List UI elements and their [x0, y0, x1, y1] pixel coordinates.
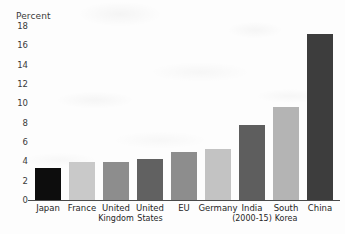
y-axis-tick-8: 8: [23, 118, 28, 127]
bar-slot: [235, 26, 269, 200]
y-axis-tick-labels: 181614121086420: [14, 26, 31, 200]
bar-chart: Percent 181614121086420 JapanFranceUnite…: [0, 0, 345, 234]
x-axis-label-line1: United: [136, 203, 164, 213]
y-axis-tick-6: 6: [23, 138, 28, 147]
plot-area: [31, 26, 337, 200]
bar-slot: [201, 26, 235, 200]
bar[interactable]: [35, 168, 61, 200]
x-axis-label-line1: Japan: [36, 203, 60, 213]
x-axis-label-line2: States: [129, 214, 171, 225]
bars-layer: [31, 26, 337, 200]
y-axis-tick-10: 10: [17, 99, 28, 108]
bar-slot: [65, 26, 99, 200]
y-axis-tick-4: 4: [23, 157, 28, 166]
x-axis-label-line1: China: [308, 203, 332, 213]
bar[interactable]: [205, 149, 231, 200]
x-axis-label-line1: United: [102, 203, 130, 213]
y-axis-tick-2: 2: [23, 176, 28, 185]
y-axis-tick-14: 14: [17, 60, 28, 69]
x-axis-label-line1: France: [68, 203, 96, 213]
y-axis-unit-label: Percent: [16, 11, 51, 21]
x-axis-label-line1: India: [242, 203, 263, 213]
x-axis-label-line2: Korea: [265, 214, 307, 225]
x-axis-category-labels: JapanFranceUnitedKingdomUnitedStatesEUGe…: [31, 203, 337, 233]
x-axis-label-line1: EU: [178, 203, 190, 213]
bar[interactable]: [103, 162, 129, 200]
x-axis-label: China: [299, 203, 341, 214]
bar-slot: [269, 26, 303, 200]
x-axis-label-line1: South: [274, 203, 299, 213]
x-axis-baseline: [28, 200, 340, 201]
bar[interactable]: [69, 162, 95, 200]
y-axis-tick-16: 16: [17, 41, 28, 50]
bar[interactable]: [171, 152, 197, 200]
bar-slot: [99, 26, 133, 200]
bar-slot: [31, 26, 65, 200]
bar[interactable]: [239, 125, 265, 200]
bar[interactable]: [137, 159, 163, 200]
bar[interactable]: [307, 34, 333, 200]
y-axis-tick-12: 12: [17, 80, 28, 89]
bar-slot: [167, 26, 201, 200]
y-axis-tick-18: 18: [17, 22, 28, 31]
bar[interactable]: [273, 107, 299, 200]
bar-slot: [133, 26, 167, 200]
bar-slot: [303, 26, 337, 200]
